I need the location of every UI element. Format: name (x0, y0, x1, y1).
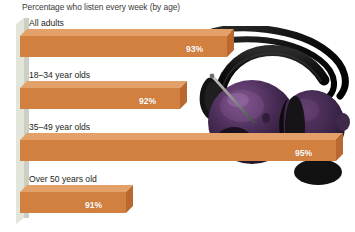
bar-label-0: All adults (29, 18, 64, 28)
bar-value-3: 91% (85, 200, 102, 210)
bar-label-1: 18–34 year olds (29, 70, 90, 80)
bar-value-0: 93% (186, 44, 203, 54)
bar-1 (20, 81, 205, 110)
bar-label-3: Over 50 years old (29, 174, 97, 184)
bars-layer: All adults 93% 18–34 year olds 92% 35–49… (0, 0, 355, 232)
bar-chart-figure: Percentage who listen every week (by age… (0, 0, 355, 232)
bar-shape-0 (20, 29, 250, 58)
bar-shape-1 (20, 81, 205, 110)
bar-label-2: 35–49 year olds (29, 122, 90, 132)
bar-0 (20, 29, 250, 58)
bar-value-1: 92% (139, 96, 156, 106)
bar-value-2: 95% (295, 148, 312, 158)
